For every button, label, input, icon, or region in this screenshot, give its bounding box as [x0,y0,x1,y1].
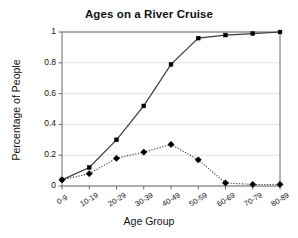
chart-figure: Ages on a River Cruise Percentage of Peo… [0,0,298,238]
data-point-cumulative-70-79 [251,32,255,36]
grid-lines [62,32,280,186]
data-point-cumulative-20-29 [115,138,119,142]
series-line-frequency [62,144,280,184]
data-point-cumulative-80-89 [278,30,282,34]
plot-area [0,0,298,238]
series-layer [59,30,283,187]
data-point-frequency-10-19 [86,171,92,177]
series-line-cumulative [62,32,280,180]
data-point-cumulative-10-19 [87,166,91,170]
tick-marks [59,32,281,190]
data-point-frequency-30-39 [141,149,147,155]
data-point-cumulative-50-59 [196,36,200,40]
axis-frame [62,32,280,186]
data-point-cumulative-60-69 [224,33,228,37]
data-point-cumulative-0-9 [60,178,64,182]
data-point-frequency-20-29 [113,155,119,161]
data-point-cumulative-30-39 [142,104,146,108]
data-point-frequency-40-49 [168,141,174,147]
data-point-frequency-70-79 [250,181,256,187]
plot-frame [62,32,280,186]
data-point-frequency-80-89 [277,181,283,187]
data-point-cumulative-40-49 [169,62,173,66]
data-point-frequency-50-59 [195,157,201,163]
